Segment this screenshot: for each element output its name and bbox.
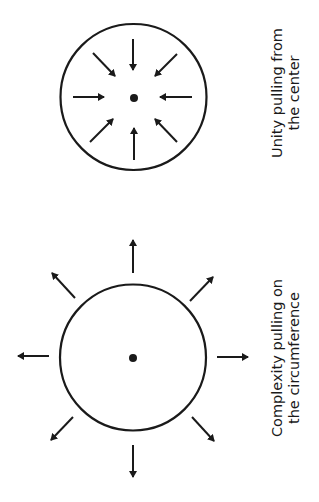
inward-arrow-top-right-icon: [155, 54, 177, 76]
diagram-canvas: Unity pulling from the center Complexity…: [0, 0, 319, 502]
unity-caption: Unity pulling from the center: [269, 28, 303, 158]
complexity-caption-line2: the circumference: [286, 279, 303, 437]
outward-arrow-top-right-icon: [190, 277, 213, 301]
inward-arrow-top-left-icon: [93, 53, 115, 76]
unity-center-dot: [130, 94, 138, 102]
complexity-figure: [18, 240, 248, 477]
outward-arrow-bottom-left-icon: [51, 417, 73, 440]
complexity-caption: Complexity pulling on the circumference: [269, 279, 303, 437]
outward-arrow-top-left-icon: [52, 273, 75, 298]
inward-arrow-bottom-left-icon: [90, 119, 113, 142]
outward-arrow-bottom-right-icon: [192, 417, 214, 441]
inward-arrow-bottom-right-icon: [155, 119, 177, 142]
unity-caption-line1: Unity pulling from: [269, 28, 286, 158]
unity-figure: [61, 24, 207, 170]
unity-caption-line2: the center: [286, 28, 303, 158]
complexity-center-dot: [129, 354, 137, 362]
complexity-caption-line1: Complexity pulling on: [269, 279, 286, 437]
